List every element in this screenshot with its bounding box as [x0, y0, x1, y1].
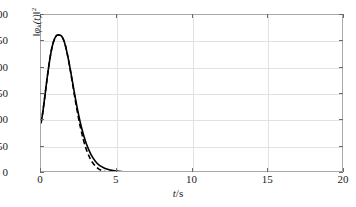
x-tick-mark: [40, 168, 41, 172]
y-axis-label-holder: ‖φk(t)‖2: [0, 14, 16, 172]
x-tick-label: 15: [262, 174, 273, 185]
x-tick-mark: [192, 168, 193, 172]
x-tick-mark: [267, 168, 268, 172]
x-tick-label: 5: [113, 174, 119, 185]
x-tick-mark-top: [267, 14, 268, 18]
series-dashed-line: [41, 35, 343, 172]
y-tick-mark-right: [339, 67, 343, 68]
y-tick-mark: [40, 93, 44, 94]
x-axis-label: t/s: [0, 188, 356, 199]
figure: 050100150200250300 05101520 ‖φk(t)‖2 t/s: [0, 0, 356, 207]
y-tick-mark: [40, 40, 44, 41]
x-tick-mark: [343, 168, 344, 172]
y-tick-mark: [40, 146, 44, 147]
x-tick-label: 0: [37, 174, 43, 185]
x-tick-mark: [116, 168, 117, 172]
x-tick-mark-top: [192, 14, 193, 18]
x-tick-label: 20: [338, 174, 349, 185]
curve-svg: [41, 15, 343, 172]
y-tick-mark-right: [339, 119, 343, 120]
y-tick-mark-right: [339, 93, 343, 94]
y-tick-mark-right: [339, 146, 343, 147]
x-axis-label-unit: /s: [176, 187, 183, 199]
x-tick-label: 10: [186, 174, 197, 185]
x-tick-mark-top: [343, 14, 344, 18]
y-tick-mark-right: [339, 40, 343, 41]
y-tick-mark: [40, 67, 44, 68]
y-tick-mark: [40, 119, 44, 120]
x-tick-mark-top: [116, 14, 117, 18]
norm-exponent: 2: [30, 8, 38, 12]
x-tick-mark-top: [40, 14, 41, 18]
plot-area: [40, 14, 343, 172]
